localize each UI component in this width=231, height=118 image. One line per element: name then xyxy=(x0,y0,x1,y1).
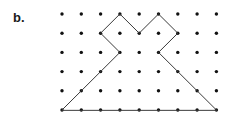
lattice-dot xyxy=(99,89,102,92)
crown-arrow-polygon xyxy=(62,14,216,110)
figure-container: b. xyxy=(0,0,231,118)
lattice-dot xyxy=(215,12,218,15)
lattice-dot xyxy=(118,32,121,35)
lattice-dot xyxy=(99,12,102,15)
lattice-dot xyxy=(195,70,198,73)
lattice-dot xyxy=(60,12,63,15)
lattice-dot xyxy=(195,12,198,15)
lattice-dot xyxy=(215,51,218,54)
dot-lattice-diagram xyxy=(0,0,231,118)
lattice-dot xyxy=(60,70,63,73)
lattice-dot xyxy=(118,89,121,92)
lattice-dot xyxy=(80,51,83,54)
lattice-dot xyxy=(195,32,198,35)
lattice-dot xyxy=(60,32,63,35)
lattice-dot xyxy=(60,51,63,54)
shape-group xyxy=(62,14,216,110)
lattice-dot xyxy=(195,51,198,54)
lattice-dot xyxy=(176,51,179,54)
lattice-dot xyxy=(118,70,121,73)
lattice-dot xyxy=(138,70,141,73)
lattice-dot xyxy=(80,32,83,35)
lattice-dot xyxy=(99,51,102,54)
lattice-dot xyxy=(157,70,160,73)
lattice-dot xyxy=(138,89,141,92)
lattice-dot xyxy=(157,89,160,92)
lattice-dot xyxy=(215,70,218,73)
lattice-dot xyxy=(80,12,83,15)
lattice-dot xyxy=(138,51,141,54)
lattice-dot xyxy=(138,12,141,15)
lattice-dot xyxy=(215,32,218,35)
dot-grid xyxy=(60,12,218,111)
lattice-dot xyxy=(60,89,63,92)
lattice-dot xyxy=(157,32,160,35)
lattice-dot xyxy=(176,12,179,15)
lattice-dot xyxy=(176,89,179,92)
lattice-dot xyxy=(215,89,218,92)
lattice-dot xyxy=(80,70,83,73)
